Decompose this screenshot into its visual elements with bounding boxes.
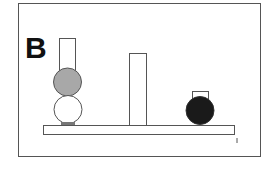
physics-scene	[0, 0, 272, 179]
base-plank	[44, 126, 235, 135]
middle-tall-block	[130, 54, 147, 126]
gray-ball	[54, 68, 82, 96]
white-ball	[54, 96, 82, 124]
left-tall-block	[60, 39, 76, 71]
black-ball	[186, 97, 214, 125]
white-ball-base	[61, 122, 75, 125]
